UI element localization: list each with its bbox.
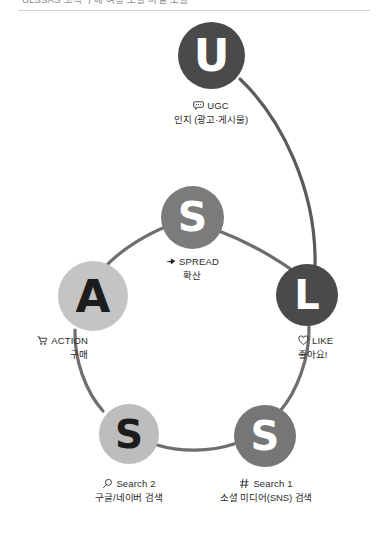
label-spread: SPREAD 확산 <box>132 255 252 283</box>
node-action[interactable]: A <box>58 261 128 331</box>
label-like: LIKE 좋아요! <box>298 334 382 362</box>
label-action: ACTION 구매 <box>4 334 88 362</box>
node-like-letter: L <box>294 275 320 315</box>
arrow-icon <box>165 256 176 267</box>
speech-bubble-icon <box>193 100 204 111</box>
node-action-letter: A <box>76 274 111 319</box>
label-like-ko: 좋아요! <box>298 348 382 362</box>
heart-icon <box>298 335 309 346</box>
label-search1: Search 1 소셜 미디어(SNS) 검색 <box>196 477 336 505</box>
label-search2: Search 2 구글/네이버 검색 <box>59 477 199 505</box>
label-action-ko: 구매 <box>4 348 88 362</box>
magnifier-icon <box>102 478 113 489</box>
label-spread-en: SPREAD <box>179 255 219 269</box>
label-action-en: ACTION <box>51 334 88 348</box>
shopping-cart-icon <box>37 335 48 346</box>
node-search2[interactable]: S <box>99 404 159 464</box>
node-search1[interactable]: S <box>234 405 296 467</box>
label-spread-ko: 확산 <box>132 269 252 283</box>
label-ugc: UGC 인지 (광고·게시물) <box>131 99 291 127</box>
node-spread-letter: S <box>178 197 208 238</box>
node-search2-letter: S <box>115 415 143 454</box>
node-spread[interactable]: S <box>161 186 224 249</box>
node-like[interactable]: L <box>276 264 338 326</box>
hash-icon <box>239 478 250 489</box>
ulssas-cycle-diagram: U UGC 인지 (광고·게시물) S SPRE <box>0 0 387 534</box>
label-ugc-en: UGC <box>207 99 229 113</box>
label-like-en: LIKE <box>312 334 333 348</box>
ring-arc-search1-to-search2 <box>157 444 234 450</box>
node-ugc[interactable]: U <box>178 22 245 89</box>
node-ugc-letter: U <box>194 34 230 78</box>
label-search1-en: Search 1 <box>253 477 292 491</box>
label-search2-en: Search 2 <box>116 477 155 491</box>
label-search2-ko: 구글/네이버 검색 <box>59 491 199 505</box>
label-search1-ko: 소셜 미디어(SNS) 검색 <box>196 491 336 505</box>
node-search1-letter: S <box>251 416 280 456</box>
label-ugc-ko: 인지 (광고·게시물) <box>131 113 291 127</box>
